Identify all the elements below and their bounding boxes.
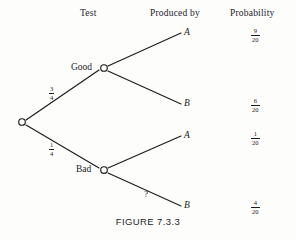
node-good [101, 65, 108, 72]
fraction-numerator: 9 [253, 28, 258, 35]
fraction-numerator: 6 [253, 98, 258, 105]
node-label-good: Good [71, 62, 92, 72]
fraction-numerator: 1 [49, 142, 54, 149]
outcome-label-good-b: B [184, 98, 190, 108]
figure-container: Test Produced by Probability Good Bad 3 … [0, 0, 296, 240]
node-label-bad: Bad [76, 164, 91, 174]
node-bad [101, 167, 108, 174]
fraction-denominator: 20 [251, 207, 260, 215]
fraction-denominator: 4 [49, 93, 54, 101]
figure-caption: FIGURE 7.3.3 [0, 216, 296, 227]
fraction-numerator: 1 [253, 131, 258, 138]
fraction-numerator: 3 [49, 86, 54, 93]
outcome-label-good-a: A [184, 27, 190, 37]
joint-probability-good-b: 6 20 [251, 98, 260, 113]
fraction-denominator: 4 [49, 149, 54, 157]
outcome-label-bad-b: B [184, 200, 190, 210]
fraction-numerator: 4 [253, 200, 258, 207]
branch-probability-unknown: ? [144, 189, 148, 199]
branch-root-to-bad [26, 125, 99, 168]
fraction-denominator: 20 [251, 138, 260, 146]
outcome-label-bad-a: A [184, 130, 190, 140]
fraction-denominator: 20 [251, 105, 260, 113]
branch-probability-good: 3 4 [49, 86, 54, 101]
branch-good-to-b [108, 71, 181, 104]
joint-probability-bad-a: 1 20 [251, 131, 260, 146]
branch-good-to-a [108, 33, 181, 66]
joint-probability-good-a: 9 20 [251, 28, 260, 43]
branch-root-to-good [26, 70, 99, 120]
node-root [19, 119, 26, 126]
joint-probability-bad-b: 4 20 [251, 200, 260, 215]
branch-bad-to-a [108, 136, 181, 168]
branch-probability-bad: 1 4 [49, 142, 54, 157]
fraction-denominator: 20 [251, 35, 260, 43]
